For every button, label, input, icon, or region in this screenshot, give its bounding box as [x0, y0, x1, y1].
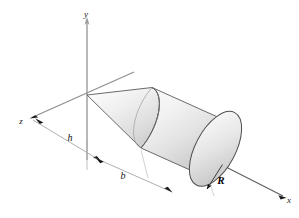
- dimension-b-extension-left: [141, 150, 148, 178]
- z-axis-label: z: [18, 116, 23, 126]
- figure-container: h b R y x z: [0, 0, 299, 218]
- dimension-h-start-arrow: [35, 118, 43, 124]
- solid-of-revolution-figure: h b R y x z: [0, 0, 299, 218]
- y-axis-label: y: [83, 9, 88, 19]
- x-axis-line: [222, 165, 283, 196]
- dimension-h: h: [33, 118, 102, 170]
- solid-body: [87, 88, 252, 195]
- dimension-h-label: h: [68, 132, 73, 143]
- x-axis-label: x: [286, 195, 291, 205]
- x-axis: [222, 165, 287, 199]
- y-axis: [84, 17, 89, 160]
- dimension-b-line: [95, 158, 172, 192]
- dimension-R-label: R: [216, 174, 224, 186]
- dimension-b-label: b: [121, 170, 126, 181]
- dimension-b-start-arrow: [96, 158, 104, 164]
